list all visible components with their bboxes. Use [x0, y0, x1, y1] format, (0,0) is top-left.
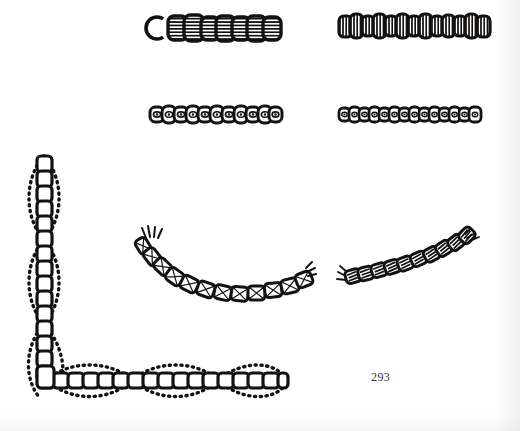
barrel-link-open-ring	[146, 17, 168, 39]
banded-link-group	[344, 225, 477, 284]
crossed-link-group	[134, 236, 314, 302]
figure-barrel-link-chain-horizontal	[143, 11, 289, 45]
eye-link-group	[339, 107, 481, 122]
figure-eye-link-chain-horizontal-long	[338, 104, 484, 128]
barrel-link-group	[168, 15, 281, 41]
figure-narrow-link-chain-horizontal	[337, 12, 497, 44]
frayed-thread-end-left	[142, 226, 162, 238]
figure-eye-link-chain-horizontal-short	[149, 103, 283, 129]
vertical-ladder-core	[37, 156, 52, 381]
corner-junction	[37, 366, 54, 388]
book-page: 293	[0, 0, 520, 431]
figure-crossed-link-chain-arc-left	[132, 222, 318, 308]
figure-banded-link-chain-arc-right	[336, 232, 516, 312]
eye-link-group	[150, 106, 282, 123]
page-number: 293	[371, 371, 390, 383]
narrow-link-group	[339, 14, 490, 38]
horizontal-ladder-core	[38, 373, 288, 388]
